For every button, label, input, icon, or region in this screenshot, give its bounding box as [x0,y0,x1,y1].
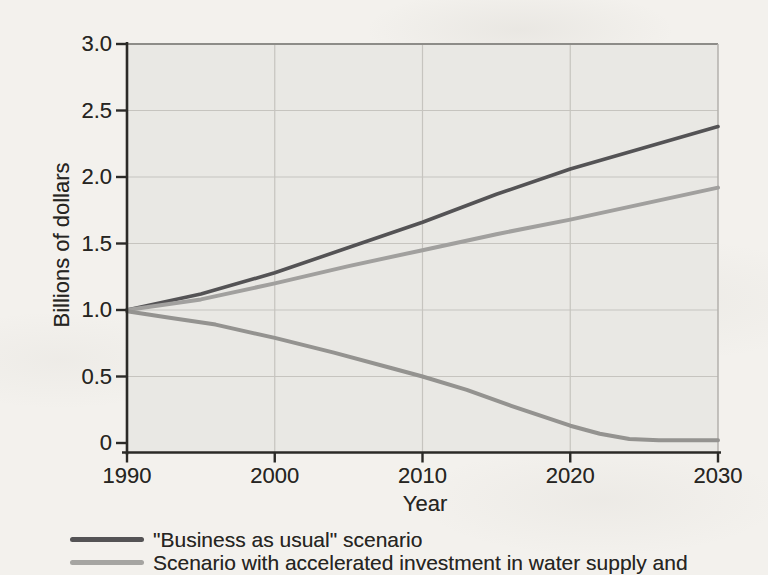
y-tick-label: 2.5 [58,99,112,123]
x-tick-label: 2000 [233,464,317,488]
legend-item-business-as-usual: "Business as usual" scenario [70,528,688,551]
y-tick-label: 0 [58,431,112,455]
line-chart-figure [0,0,768,575]
x-tick-label: 1990 [85,464,169,488]
chart-legend: "Business as usual" scenario Scenario wi… [70,528,688,574]
x-tick-label: 2030 [676,464,760,488]
legend-label-accelerated-investment: Scenario with accelerated investment in … [153,552,688,574]
y-axis-title: Billions of dollars [50,162,74,327]
x-tick-label: 2010 [381,464,465,488]
y-tick-label: 0.5 [58,365,112,389]
legend-swatch-dark-line-icon [70,537,144,542]
x-tick-label: 2020 [528,464,612,488]
legend-swatch-light-line-icon [70,560,144,565]
y-tick-label: 3.0 [58,32,112,56]
legend-item-accelerated-investment: Scenario with accelerated investment in … [70,551,688,574]
legend-label-business-as-usual: "Business as usual" scenario [153,529,422,551]
x-axis-title: Year [363,492,487,516]
